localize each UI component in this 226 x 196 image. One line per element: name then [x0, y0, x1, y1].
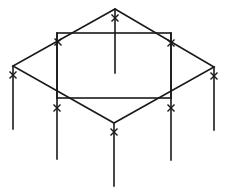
rectangular-frame	[57, 33, 171, 98]
diamond-frame	[13, 9, 214, 123]
frame-diagram	[0, 0, 226, 196]
